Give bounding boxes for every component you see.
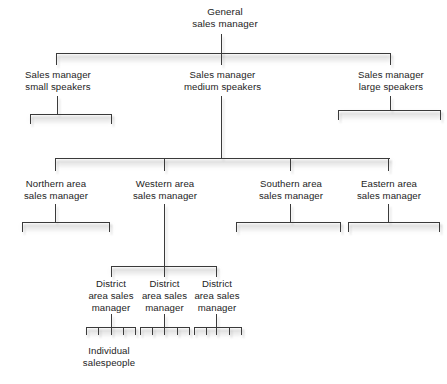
- connector-southern-stem: [290, 204, 291, 222]
- comb-3-tooth-2: [206, 327, 207, 335]
- bracket-eastern: [348, 222, 440, 223]
- connector-level3-drop-western: [164, 158, 165, 171]
- connector-level4-drop-district-3: [216, 266, 217, 277]
- comb-2-tooth-3: [164, 327, 165, 335]
- node-sales-manager-small-speakers: Sales manager small speakers: [12, 69, 104, 93]
- connector-western-stem: [164, 204, 165, 266]
- comb-3-tooth-1: [194, 327, 195, 335]
- node-sales-manager-medium-speakers: Sales manager medium speakers: [175, 69, 270, 93]
- node-eastern-area-sales-manager: Eastern area sales manager: [347, 178, 431, 202]
- bracket-northern-left-stub: [22, 222, 23, 232]
- bracket-southern-left-stub: [236, 222, 237, 232]
- comb-1-tooth-2: [98, 327, 99, 335]
- bracket-large-speakers-left-stub: [338, 110, 339, 120]
- connector-level3-bus: [55, 158, 390, 159]
- bracket-southern-right-stub: [340, 222, 341, 232]
- node-southern-area-sales-manager: Southern area sales manager: [246, 178, 336, 202]
- connector-northern-stem: [55, 204, 56, 222]
- comb-1-tooth-4: [123, 327, 124, 335]
- comb-1-tooth-3: [111, 327, 112, 335]
- org-chart: General sales manager Sales manager smal…: [0, 0, 447, 384]
- connector-level2-bus: [56, 53, 391, 54]
- comb-3-tooth-4: [229, 327, 230, 335]
- connector-root-stem: [221, 34, 222, 54]
- bracket-eastern-left-stub: [348, 222, 349, 232]
- comb-2-stem: [164, 314, 165, 327]
- connector-large-speakers-stem: [390, 96, 391, 110]
- node-general-sales-manager: General sales manager: [175, 6, 275, 30]
- connector-small-speakers-stem: [57, 96, 58, 114]
- bracket-small-speakers-right-stub: [111, 114, 112, 124]
- comb-2-tooth-2: [152, 327, 153, 335]
- comb-3-rail: [194, 327, 242, 328]
- comb-1-stem: [111, 314, 112, 327]
- node-district-area-sales-manager-3: District area sales manager: [189, 278, 245, 315]
- node-district-area-sales-manager-1: District area sales manager: [82, 278, 140, 315]
- connector-level2-drop-left: [56, 53, 57, 65]
- bracket-large-speakers: [338, 110, 441, 111]
- connector-level2-drop-center: [221, 53, 222, 65]
- connector-level3-drop-southern: [290, 158, 291, 171]
- comb-2-tooth-1: [140, 327, 141, 335]
- node-sales-manager-large-speakers: Sales manager large speakers: [345, 69, 437, 93]
- connector-level4-drop-district-2: [164, 266, 165, 277]
- bracket-northern-right-stub: [109, 222, 110, 232]
- bracket-northern: [22, 222, 110, 223]
- connector-level3-drop-northern: [55, 158, 56, 171]
- node-western-area-sales-manager: Western area sales manager: [121, 178, 209, 202]
- comb-3-tooth-3: [216, 327, 217, 335]
- bracket-large-speakers-right-stub: [440, 110, 441, 120]
- node-district-area-sales-manager-2: District area sales manager: [136, 278, 193, 315]
- comb-3-stem: [216, 314, 217, 327]
- connector-level2-drop-right: [390, 53, 391, 65]
- node-northern-area-sales-manager: Northern area sales manager: [11, 178, 101, 202]
- connector-level3-drop-eastern: [388, 158, 389, 171]
- bracket-small-speakers-left-stub: [30, 114, 31, 124]
- comb-1-tooth-5: [135, 327, 136, 335]
- comb-3-tooth-5: [241, 327, 242, 335]
- comb-2-tooth-4: [177, 327, 178, 335]
- connector-level4-drop-district-1: [111, 266, 112, 277]
- comb-1-tooth-1: [86, 327, 87, 335]
- bracket-southern: [236, 222, 341, 223]
- comb-2-tooth-5: [189, 327, 190, 335]
- bracket-eastern-right-stub: [439, 222, 440, 232]
- node-individual-salespeople: Individual salespeople: [64, 345, 154, 369]
- connector-medium-speakers-stem: [221, 96, 222, 158]
- bracket-small-speakers: [30, 114, 112, 115]
- connector-eastern-stem: [388, 204, 389, 222]
